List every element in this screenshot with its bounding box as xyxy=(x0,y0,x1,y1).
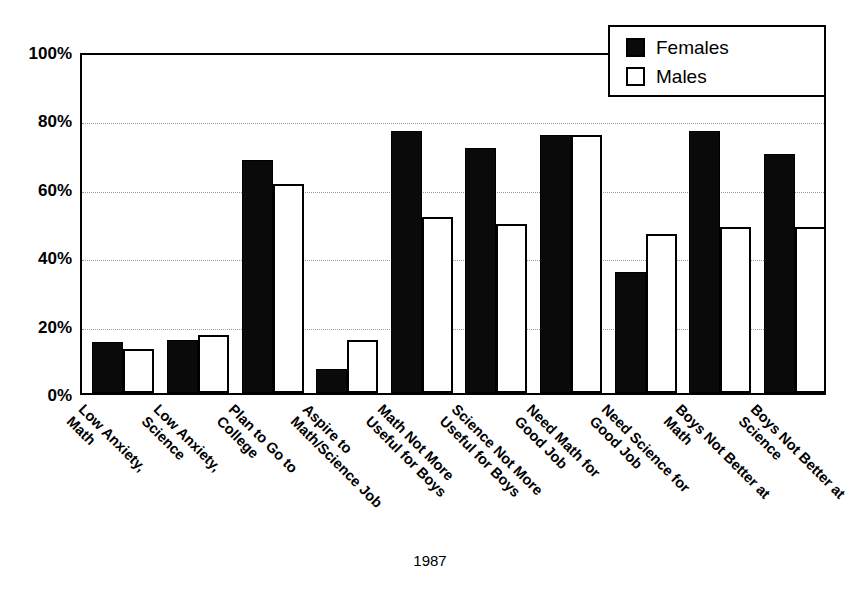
bar-females xyxy=(764,154,795,393)
y-tick-label: 40% xyxy=(12,250,72,267)
y-tick-label: 100% xyxy=(12,45,72,62)
legend-swatch-female xyxy=(626,38,645,57)
bar-males xyxy=(496,224,527,393)
bar-females xyxy=(689,131,720,393)
x-tick-label: Plan to Go toCollege xyxy=(212,401,300,489)
bar-females xyxy=(316,369,347,393)
y-tick-label: 80% xyxy=(12,113,72,130)
plot-area xyxy=(80,53,826,395)
bar-females xyxy=(92,342,123,393)
y-tick-label: 60% xyxy=(12,181,72,198)
bar-males xyxy=(273,184,304,393)
bar-males xyxy=(571,135,602,393)
x-tick-label: Low Anxiety,Science xyxy=(138,401,224,487)
bar-males xyxy=(198,335,229,393)
legend-swatch-male xyxy=(626,67,645,86)
x-axis-category-labels: Low Anxiety,MathLow Anxiety,SciencePlan … xyxy=(0,395,860,560)
bar-males xyxy=(646,234,677,393)
legend-item: Males xyxy=(626,62,824,91)
x-axis-title: 1987 xyxy=(0,552,860,569)
bar-males xyxy=(422,217,453,393)
legend-label: Females xyxy=(656,38,729,57)
bar-males xyxy=(347,340,378,393)
bars-layer xyxy=(82,55,824,393)
bar-males xyxy=(720,227,751,393)
bar-males xyxy=(795,227,826,393)
bar-females xyxy=(540,135,571,393)
bar-females xyxy=(391,131,422,393)
bar-females xyxy=(465,148,496,393)
bar-females xyxy=(167,340,198,393)
legend-label: Males xyxy=(656,67,707,86)
bar-females xyxy=(242,160,273,393)
x-tick-label: Low Anxiety,Math xyxy=(63,401,149,487)
bar-chart: 0%20%40%60%80%100% FemalesMales Low Anxi… xyxy=(0,0,860,605)
chart-legend: FemalesMales xyxy=(608,25,826,97)
y-tick-label: 20% xyxy=(12,318,72,335)
bar-females xyxy=(615,272,646,393)
legend-item: Females xyxy=(626,33,824,62)
bar-males xyxy=(123,349,154,393)
